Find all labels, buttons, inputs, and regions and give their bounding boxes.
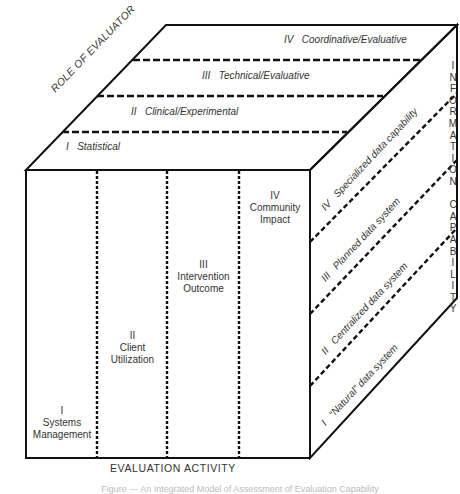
- activity-label-ii: II Client Utilization: [98, 330, 167, 366]
- activity-label-i: I Systems Management: [27, 405, 97, 441]
- role-label-ii: II Clinical/Experimental: [131, 106, 238, 118]
- information-capability-axis-label: I N F O R M A T I O N C A P A B I L I T …: [447, 60, 459, 315]
- axis-letter: I: [447, 280, 459, 292]
- activity-numeral-iv: IV: [240, 190, 310, 202]
- activity-line1-iii: Intervention: [168, 271, 239, 283]
- activity-label-iv: IV Community Impact: [240, 190, 310, 226]
- axis-letter: Y: [447, 303, 459, 315]
- role-numeral-ii: II: [131, 106, 137, 117]
- activity-line2-i: Management: [27, 429, 97, 441]
- activity-line2-iv: Impact: [240, 214, 310, 226]
- axis-letter: P: [447, 222, 459, 234]
- activity-line2-iii: Outcome: [168, 283, 239, 295]
- role-label-iv: IV Coordinative/Evaluative: [284, 34, 407, 46]
- axis-letter: C: [447, 199, 459, 211]
- axis-letter: A: [447, 234, 459, 246]
- axis-letter: T: [447, 292, 459, 304]
- activity-line1-iv: Community: [240, 202, 310, 214]
- role-text-clinical: Clinical/Experimental: [145, 106, 238, 117]
- figure-caption: Figure — An Integrated Model of Assessme…: [40, 484, 440, 494]
- activity-line2-ii: Utilization: [98, 354, 167, 366]
- axis-letter: N: [447, 176, 459, 188]
- role-numeral-iv: IV: [284, 34, 293, 45]
- axis-letter-gap: [447, 188, 459, 200]
- axis-letter: B: [447, 246, 459, 258]
- axis-letter: T: [447, 141, 459, 153]
- activity-line1-i: Systems: [27, 417, 97, 429]
- axis-letter: I: [447, 60, 459, 72]
- axis-letter: N: [447, 72, 459, 84]
- role-label-iii: III Technical/Evaluative: [202, 70, 309, 82]
- axis-letter: A: [447, 130, 459, 142]
- activity-label-iii: III Intervention Outcome: [168, 259, 239, 295]
- axis-letter: I: [447, 153, 459, 165]
- activity-numeral-i: I: [27, 405, 97, 417]
- role-text-coordinative: Coordinative/Evaluative: [302, 34, 407, 45]
- role-text-statistical: Statistical: [77, 141, 120, 152]
- right-face-outline: [310, 25, 457, 458]
- axis-letter: L: [447, 269, 459, 281]
- axis-letter: I: [447, 257, 459, 269]
- axis-letter: F: [447, 83, 459, 95]
- axis-letter: A: [447, 211, 459, 223]
- axis-letter: M: [447, 118, 459, 130]
- evaluation-activity-axis-label: EVALUATION ACTIVITY: [110, 462, 236, 474]
- role-numeral-i: I: [66, 141, 69, 152]
- activity-line1-ii: Client: [98, 342, 167, 354]
- axis-letter: R: [447, 106, 459, 118]
- axis-letter: O: [447, 164, 459, 176]
- axis-letter: O: [447, 95, 459, 107]
- role-numeral-iii: III: [202, 70, 210, 81]
- role-text-technical: Technical/Evaluative: [219, 70, 310, 81]
- activity-numeral-ii: II: [98, 330, 167, 342]
- activity-numeral-iii: III: [168, 259, 239, 271]
- role-label-i: I Statistical: [66, 141, 120, 153]
